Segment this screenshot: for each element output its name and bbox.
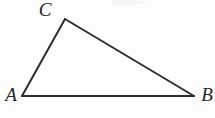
vertex-label-a: A bbox=[5, 85, 17, 104]
vertex-label-b: B bbox=[201, 85, 213, 104]
geometry-figure: C A B bbox=[0, 0, 215, 118]
vertex-label-c: C bbox=[39, 0, 52, 19]
edge-ac bbox=[22, 19, 65, 96]
triangle-svg bbox=[0, 0, 215, 118]
edge-cb bbox=[65, 19, 194, 96]
